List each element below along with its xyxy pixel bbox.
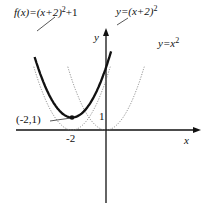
f-label-text: f(x)=(x+2) bbox=[14, 6, 62, 18]
curve-f-of-x bbox=[35, 51, 112, 117]
base-label-exp: 2 bbox=[175, 36, 179, 45]
shift-label-text: y=(x+2) bbox=[116, 5, 153, 17]
base-label-text: y=x bbox=[158, 37, 175, 49]
shift-label: y=(x+2)2 bbox=[116, 5, 157, 17]
y-axis-label: y bbox=[94, 32, 99, 43]
vertex-leader-line bbox=[50, 118, 71, 121]
x-tick-label: -2 bbox=[66, 133, 75, 144]
shift-label-leader-line bbox=[117, 18, 128, 25]
vertex-label: (-2,1) bbox=[16, 114, 41, 125]
f-label-tail: +1 bbox=[66, 6, 78, 18]
x-axis-arrow-icon bbox=[193, 127, 201, 133]
graph-canvas bbox=[0, 0, 209, 213]
x-axis-label: x bbox=[184, 135, 189, 146]
f-label-leader-line bbox=[37, 17, 55, 31]
shift-label-exp: 2 bbox=[153, 4, 157, 13]
vertex-point bbox=[70, 115, 75, 120]
f-label: f(x)=(x+2)2+1 bbox=[14, 6, 78, 18]
y-tick-label: 1 bbox=[99, 111, 105, 122]
base-label: y=x2 bbox=[158, 37, 179, 49]
y-axis-arrow-icon bbox=[103, 28, 109, 36]
